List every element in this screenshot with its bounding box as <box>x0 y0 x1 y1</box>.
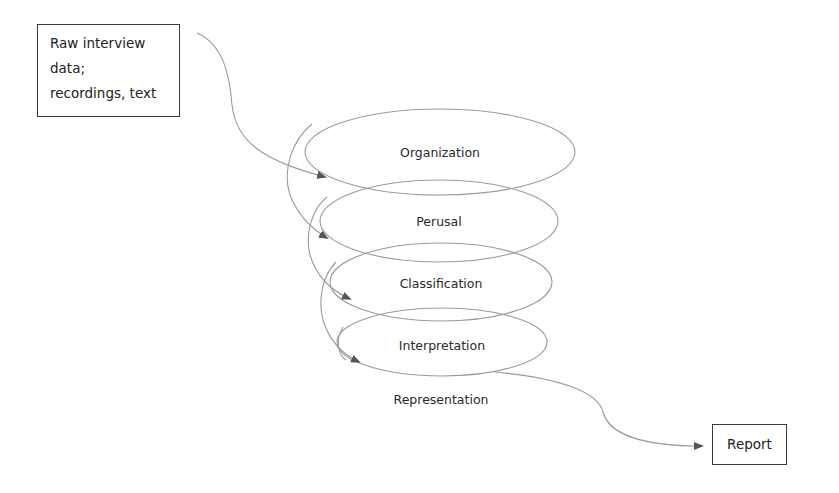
stage-label-representation: Representation <box>394 392 489 407</box>
input-box-raw-interview-data: Raw interview data; recordings, text <box>37 24 180 117</box>
connector-organization-to-perusal <box>287 124 327 238</box>
stage-label-interpretation: Interpretation <box>399 338 485 353</box>
output-box-report: Report <box>712 424 787 465</box>
stage-label-classification: Classification <box>400 276 483 291</box>
input-line-2: data; <box>50 56 179 81</box>
stage-label-perusal: Perusal <box>416 214 462 229</box>
input-line-1: Raw interview <box>50 31 179 56</box>
connector-to-report <box>495 372 702 446</box>
stage-label-organization: Organization <box>400 145 480 160</box>
input-line-3: recordings, text <box>50 81 179 106</box>
connector-perusal-to-classification <box>308 197 350 299</box>
connector-classification-to-interpretation <box>321 262 359 362</box>
